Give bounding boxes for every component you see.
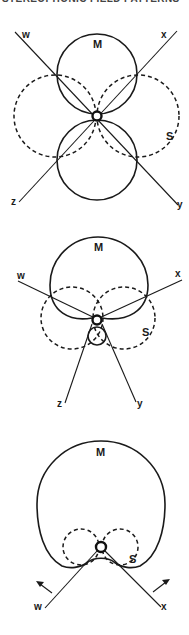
label-s: S <box>142 326 149 338</box>
label-x: x <box>161 29 167 40</box>
label-x: x <box>175 268 181 279</box>
s-lobe-right <box>97 75 179 157</box>
label-m: M <box>93 38 102 50</box>
label-x: x <box>161 601 167 612</box>
label-m: M <box>96 446 105 458</box>
figure-3: M S w x <box>33 441 170 612</box>
label-s: S <box>166 130 173 142</box>
m-lobe-rear <box>57 120 137 200</box>
arrow-left-icon <box>36 581 52 593</box>
m-lobe-rear <box>88 327 106 345</box>
figure-1: M S w x z y <box>11 29 183 210</box>
arrow-right-icon <box>153 579 170 592</box>
label-y: y <box>177 199 183 210</box>
axis-line-x <box>97 280 182 319</box>
figure-2: M S w x z y <box>16 237 182 409</box>
label-s: S <box>129 553 136 565</box>
s-lobe-left <box>14 75 96 157</box>
label-z: z <box>57 398 62 409</box>
microphone-icon <box>96 542 106 552</box>
microphone-icon <box>93 112 102 121</box>
label-w: w <box>21 29 30 40</box>
microphone-icon <box>93 316 102 325</box>
label-m: M <box>94 241 103 253</box>
label-w: w <box>33 601 42 612</box>
label-y: y <box>137 398 143 409</box>
axis-line-y <box>102 324 136 402</box>
label-z: z <box>11 196 16 207</box>
label-w: w <box>16 270 25 281</box>
axis-line-w <box>18 281 97 319</box>
